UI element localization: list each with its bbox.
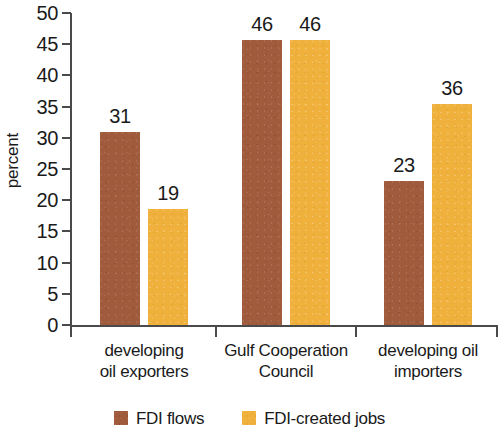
x-axis-tick-sep-1 xyxy=(215,325,217,337)
bar-fdi-created-jobs-group-2[interactable] xyxy=(290,40,330,325)
y-axis-tick-label: 50 xyxy=(14,3,58,23)
y-axis-tick-mark xyxy=(62,293,71,295)
bar-value-label: 19 xyxy=(138,183,198,203)
y-axis-tick-mark xyxy=(62,199,71,201)
bar-fdi-flows-group-3[interactable] xyxy=(384,181,424,325)
y-axis-tick-mark xyxy=(62,12,71,14)
legend-swatch-icon-fdi-flows xyxy=(114,411,128,425)
chart-legend: FDI flows FDI-created jobs xyxy=(0,405,499,431)
y-axis-tick-mark xyxy=(62,262,71,264)
legend-item-fdi-created-jobs[interactable]: FDI-created jobs xyxy=(242,410,385,427)
y-axis-tick-mark xyxy=(62,137,71,139)
y-axis-tick-label: 10 xyxy=(14,253,58,273)
legend-item-fdi-flows[interactable]: FDI flows xyxy=(114,410,204,427)
y-axis-tick-label: 30 xyxy=(14,128,58,148)
legend-swatch-icon-fdi-created-jobs xyxy=(242,411,256,425)
x-axis-category-label: developing oilimporters xyxy=(343,340,499,382)
bar-value-label: 36 xyxy=(422,78,482,98)
y-axis-tick-label: 15 xyxy=(14,221,58,241)
y-axis-tick-label: 0 xyxy=(14,315,58,335)
bar-value-label: 23 xyxy=(374,155,434,175)
y-axis-tick-label: 5 xyxy=(14,284,58,304)
bar-chart: percent 05101520253035404550 3119develop… xyxy=(0,0,499,436)
legend-label-fdi-created-jobs: FDI-created jobs xyxy=(264,410,385,427)
bar-fdi-flows-group-2[interactable] xyxy=(242,40,282,325)
y-axis-tick-label: 20 xyxy=(14,190,58,210)
y-axis-tick-mark xyxy=(62,106,71,108)
bar-fdi-created-jobs-group-3[interactable] xyxy=(432,104,472,325)
y-axis-tick-label: 25 xyxy=(14,159,58,179)
y-axis-tick-mark xyxy=(62,43,71,45)
y-axis-tick-mark xyxy=(62,230,71,232)
bar-value-label: 31 xyxy=(90,106,150,126)
y-axis-tick-mark xyxy=(62,168,71,170)
y-axis-tick-mark xyxy=(62,74,71,76)
bar-fdi-flows-group-1[interactable] xyxy=(100,132,140,325)
x-axis-tick-end xyxy=(496,325,498,337)
y-axis-tick-label: 40 xyxy=(14,65,58,85)
legend-label-fdi-flows: FDI flows xyxy=(136,410,204,427)
x-axis-tick-start xyxy=(70,325,72,337)
x-axis-tick-sep-2 xyxy=(355,325,357,337)
y-axis-tick-label: 35 xyxy=(14,97,58,117)
y-axis-tick-label: 45 xyxy=(14,34,58,54)
bar-value-label: 46 xyxy=(280,14,340,34)
x-axis-line xyxy=(70,325,498,327)
bar-fdi-created-jobs-group-1[interactable] xyxy=(148,209,188,325)
